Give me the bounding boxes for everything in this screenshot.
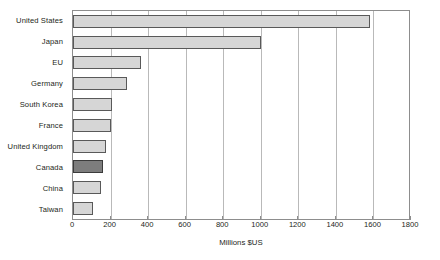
value-tick-label: 400 [141,220,154,229]
category-label: United Kingdom [0,136,68,157]
value-axis: 020040060080010001200140016001800 [72,220,410,236]
bar-row [73,53,409,74]
bar-row [73,94,409,115]
bar-row [73,32,409,53]
bar[interactable] [73,77,127,90]
bar-row [73,115,409,136]
bar[interactable] [73,202,93,215]
value-tick-label: 1400 [326,220,343,229]
bar[interactable] [73,181,101,194]
bar[interactable] [73,15,370,28]
bar[interactable] [73,56,141,69]
category-label: Japan [0,31,68,52]
category-label: Canada [0,157,68,178]
bar-row [73,177,409,198]
category-label: South Korea [0,94,68,115]
category-label: EU [0,52,68,73]
category-axis: United StatesJapanEUGermanySouth KoreaFr… [0,10,68,220]
category-label: Germany [0,73,68,94]
value-tick-label: 200 [103,220,116,229]
value-tick-label: 1600 [364,220,381,229]
bar-row [73,11,409,32]
bar-row [73,136,409,157]
bar-row [73,157,409,178]
value-tick-label: 1000 [251,220,268,229]
x-axis-title: Millions $US [72,238,410,247]
bar-row [73,198,409,219]
bar[interactable] [73,36,261,49]
value-tick-label: 800 [216,220,229,229]
bar-row [73,73,409,94]
bar-chart: United StatesJapanEUGermanySouth KoreaFr… [0,0,440,260]
category-label: United States [0,10,68,31]
value-tick-label: 600 [178,220,191,229]
category-label: Taiwan [0,199,68,220]
value-tick-label: 1800 [402,220,419,229]
bar[interactable] [73,160,103,173]
value-tick-label: 0 [70,220,74,229]
bar[interactable] [73,140,106,153]
bar-series [73,11,409,219]
category-label: France [0,115,68,136]
value-tick-label: 1200 [289,220,306,229]
category-label: China [0,178,68,199]
plot-area [72,10,410,220]
bar[interactable] [73,98,112,111]
bar[interactable] [73,119,111,132]
